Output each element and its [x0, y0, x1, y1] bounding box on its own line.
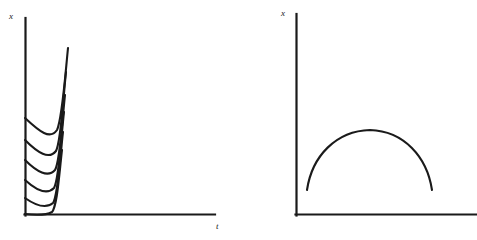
left-y-axis-label: x [8, 11, 13, 21]
right-y-axis-label: x [280, 8, 285, 18]
figure-background [0, 0, 477, 240]
figure-canvas: x t x [0, 0, 477, 240]
